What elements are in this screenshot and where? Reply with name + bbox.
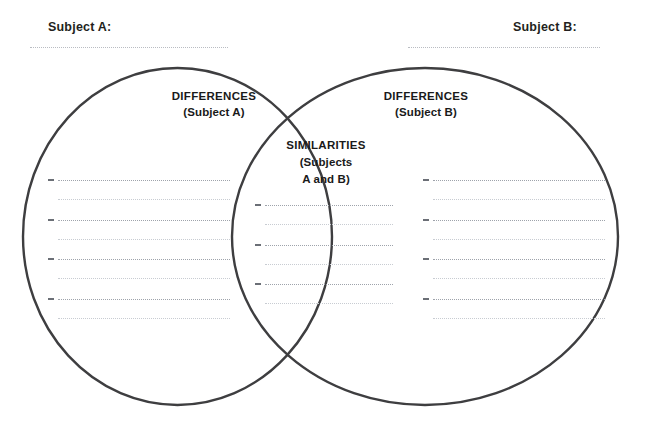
bullet-dash-icon — [255, 204, 261, 206]
subject-a-label: Subject A: — [48, 20, 111, 34]
left-circle-heading: DIFFERENCES (Subject A) — [140, 88, 288, 120]
writing-line-primary[interactable] — [433, 259, 605, 260]
writing-line-secondary[interactable] — [433, 278, 605, 279]
bullet-dash-icon — [255, 244, 261, 246]
writing-line-secondary[interactable] — [58, 278, 230, 279]
writing-line-secondary[interactable] — [433, 239, 605, 240]
bullet-dash-icon — [423, 179, 429, 181]
subject-b-label: Subject B: — [513, 20, 577, 34]
bullet-dash-icon — [48, 179, 54, 181]
writing-line-secondary[interactable] — [58, 318, 230, 319]
bullet-dash-icon — [48, 219, 54, 221]
bullet-dash-icon — [48, 298, 54, 300]
writing-line-primary[interactable] — [58, 259, 230, 260]
left-circle-title: DIFFERENCES — [140, 88, 288, 104]
bullet-dash-icon — [255, 283, 261, 285]
writing-line-primary[interactable] — [433, 180, 605, 181]
center-overlap-heading: SIMILARITIES (Subjects A and B) — [272, 137, 380, 188]
writing-line-secondary[interactable] — [265, 264, 393, 265]
writing-line-primary[interactable] — [433, 220, 605, 221]
bullet-dash-icon — [48, 258, 54, 260]
writing-line-secondary[interactable] — [265, 303, 393, 304]
bullet-dash-icon — [423, 298, 429, 300]
writing-line-secondary[interactable] — [58, 239, 230, 240]
writing-line-primary[interactable] — [265, 205, 393, 206]
center-overlap-title: SIMILARITIES — [272, 137, 380, 154]
center-overlap-subtitle-line2: A and B) — [272, 171, 380, 188]
writing-line-secondary[interactable] — [265, 224, 393, 225]
writing-line-primary[interactable] — [58, 299, 230, 300]
subject-a-write-line[interactable] — [30, 47, 228, 49]
worksheet-page: Subject A: Subject B: DIFFERENCES (Subje… — [0, 0, 652, 440]
right-circle-heading: DIFFERENCES (Subject B) — [352, 88, 500, 120]
right-circle-title: DIFFERENCES — [352, 88, 500, 104]
writing-line-primary[interactable] — [265, 284, 393, 285]
bullet-dash-icon — [423, 258, 429, 260]
writing-line-secondary[interactable] — [433, 199, 605, 200]
writing-line-primary[interactable] — [58, 220, 230, 221]
writing-line-primary[interactable] — [265, 245, 393, 246]
writing-line-primary[interactable] — [58, 180, 230, 181]
left-circle-subtitle: (Subject A) — [140, 104, 288, 120]
center-overlap-subtitle-line1: (Subjects — [272, 154, 380, 171]
writing-line-secondary[interactable] — [58, 199, 230, 200]
bullet-dash-icon — [423, 219, 429, 221]
writing-line-secondary[interactable] — [433, 318, 605, 319]
writing-line-primary[interactable] — [433, 299, 605, 300]
right-circle-subtitle: (Subject B) — [352, 104, 500, 120]
subject-b-write-line[interactable] — [408, 47, 600, 49]
